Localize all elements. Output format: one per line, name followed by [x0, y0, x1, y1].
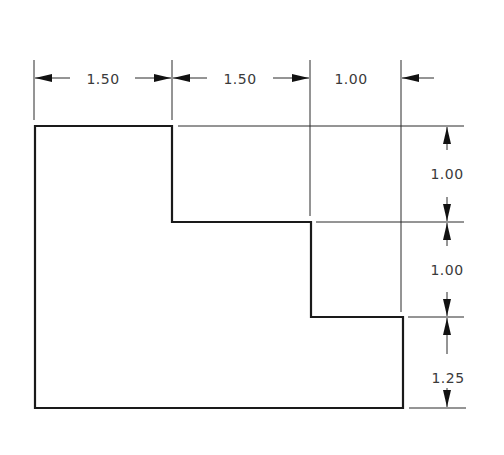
- dimension-top-3: 1.00: [334, 71, 434, 87]
- arrow-down-icon: [443, 390, 451, 407]
- arrow-down-icon: [443, 299, 451, 316]
- dim-label-h1: 1.50: [86, 71, 119, 87]
- dimension-top-2: 1.50: [173, 71, 309, 87]
- arrow-down-icon: [443, 204, 451, 221]
- part-outline: [35, 126, 403, 408]
- dim-label-v2: 1.00: [430, 262, 463, 278]
- arrow-right-icon: [154, 74, 171, 82]
- arrow-up-icon: [443, 127, 451, 144]
- dim-label-h2: 1.50: [223, 71, 256, 87]
- dim-label-v1: 1.00: [430, 166, 463, 182]
- arrow-up-icon: [443, 318, 451, 335]
- technical-drawing: 1.50 1.50 1.00 1.00 1.00 1.25: [0, 0, 504, 455]
- dim-label-h3: 1.00: [334, 71, 367, 87]
- dim-label-v3: 1.25: [431, 370, 464, 386]
- arrow-left-icon: [35, 74, 52, 82]
- arrow-right-icon: [292, 74, 309, 82]
- arrow-up-icon: [443, 223, 451, 240]
- arrow-left-icon: [173, 74, 190, 82]
- dimension-right-2: 1.00: [430, 223, 463, 316]
- dimension-top-1: 1.50: [35, 71, 171, 87]
- arrow-left-icon: [402, 74, 419, 82]
- dimension-right-1: 1.00: [430, 127, 463, 221]
- dimension-right-3: 1.25: [431, 318, 464, 407]
